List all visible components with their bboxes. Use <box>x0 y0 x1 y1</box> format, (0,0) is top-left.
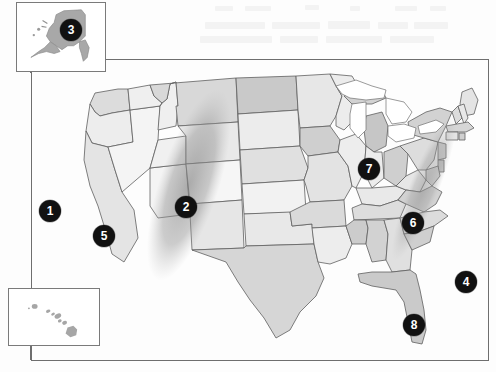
map-marker-4[interactable]: 4 <box>455 271 477 293</box>
map-marker-5[interactable]: 5 <box>93 225 115 247</box>
map-figure: 1 2 3 4 5 6 7 8 <box>0 0 496 372</box>
map-marker-2[interactable]: 2 <box>175 196 197 218</box>
map-marker-1[interactable]: 1 <box>39 200 61 222</box>
map-marker-6[interactable]: 6 <box>402 212 424 234</box>
hawaii-inset <box>8 288 100 346</box>
alaska-inset <box>16 2 106 72</box>
map-marker-7[interactable]: 7 <box>358 158 380 180</box>
map-marker-3[interactable]: 3 <box>60 19 82 41</box>
map-marker-8[interactable]: 8 <box>403 314 425 336</box>
